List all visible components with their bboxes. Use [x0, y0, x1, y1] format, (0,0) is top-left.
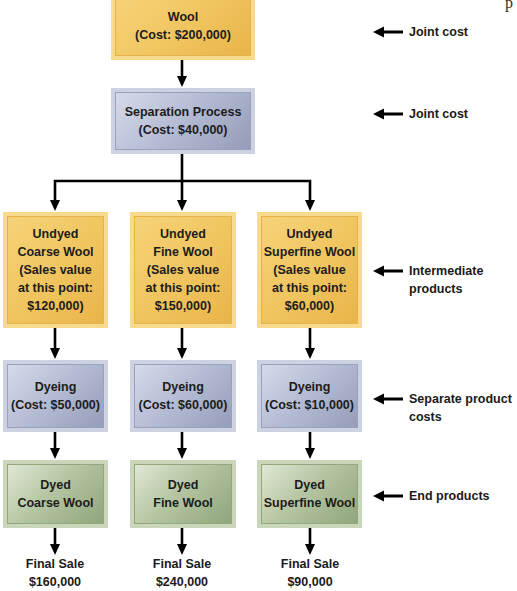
- process-cost: (Cost: $60,000): [139, 396, 228, 414]
- annotation-label: Joint cost: [409, 23, 468, 41]
- annotation-separate-product-costs: Separate product costs: [373, 390, 512, 426]
- process-title: Dyeing: [289, 378, 331, 396]
- end-product-label: Dyed: [294, 476, 325, 494]
- sales-value-label: (Sales value: [19, 261, 91, 279]
- dyed-coarse-wool-box: Dyed Coarse Wool: [3, 460, 108, 528]
- annotation-label: costs: [409, 408, 512, 426]
- sales-value: $150,000): [155, 297, 211, 315]
- intermediate-coarse-wool-box: Undyed Coarse Wool (Sales value at this …: [3, 212, 108, 328]
- process-cost: (Cost: $10,000): [265, 396, 354, 414]
- annotation-joint-cost-2: Joint cost: [373, 105, 468, 123]
- left-arrow-icon: [373, 490, 403, 502]
- final-sale-coarse: Final Sale $160,000: [5, 555, 105, 591]
- sales-value-label: at this point:: [272, 279, 347, 297]
- left-arrow-icon: [373, 26, 403, 38]
- process-cost: (Cost: $50,000): [11, 396, 100, 414]
- intermediate-label: Undyed: [160, 225, 206, 243]
- dyed-fine-wool-box: Dyed Fine Wool: [130, 460, 236, 528]
- final-sale-superfine: Final Sale $90,000: [260, 555, 360, 591]
- final-sale-label: Final Sale: [132, 555, 232, 573]
- intermediate-product-name: Fine Wool: [153, 243, 213, 261]
- end-product-name: Coarse Wool: [17, 494, 93, 512]
- intermediate-fine-wool-box: Undyed Fine Wool (Sales value at this po…: [130, 212, 236, 328]
- dyed-superfine-wool-box: Dyed Superfine Wool: [257, 460, 362, 528]
- end-product-label: Dyed: [168, 476, 199, 494]
- sales-value-label: at this point:: [146, 279, 221, 297]
- intermediate-label: Undyed: [287, 225, 333, 243]
- intermediate-label: Undyed: [33, 225, 79, 243]
- separation-cost: (Cost: $40,000): [139, 121, 228, 139]
- dyeing-coarse-box: Dyeing (Cost: $50,000): [3, 360, 108, 432]
- wool-cost: (Cost: $200,000): [135, 26, 231, 44]
- annotation-end-products: End products: [373, 487, 490, 505]
- dyeing-superfine-box: Dyeing (Cost: $10,000): [257, 360, 362, 432]
- final-sale-label: Final Sale: [260, 555, 360, 573]
- sales-value-label: (Sales value: [147, 261, 219, 279]
- left-arrow-icon: [373, 393, 403, 405]
- annotation-label: End products: [409, 487, 490, 505]
- end-product-label: Dyed: [40, 476, 71, 494]
- sales-value-label: at this point:: [18, 279, 93, 297]
- separation-title: Separation Process: [125, 103, 242, 121]
- end-product-name: Superfine Wool: [264, 494, 355, 512]
- intermediate-product-name: Superfine Wool: [264, 243, 355, 261]
- sales-value-label: (Sales value: [273, 261, 345, 279]
- process-title: Dyeing: [162, 378, 204, 396]
- left-arrow-icon: [373, 265, 403, 277]
- final-sale-value: $90,000: [260, 573, 360, 591]
- intermediate-superfine-wool-box: Undyed Superfine Wool (Sales value at th…: [257, 212, 362, 328]
- final-sale-value: $160,000: [5, 573, 105, 591]
- wool-title: Wool: [168, 8, 198, 26]
- separation-process-box: Separation Process (Cost: $40,000): [111, 88, 255, 154]
- sales-value: $60,000): [285, 297, 334, 315]
- final-sale-label: Final Sale: [5, 555, 105, 573]
- wool-box: Wool (Cost: $200,000): [111, 0, 255, 60]
- annotation-intermediate-products: Intermediate products: [373, 262, 483, 298]
- annotation-label: Intermediate: [409, 262, 483, 280]
- dyeing-fine-box: Dyeing (Cost: $60,000): [130, 360, 236, 432]
- annotation-joint-cost-1: Joint cost: [373, 23, 468, 41]
- process-title: Dyeing: [35, 378, 77, 396]
- annotation-label: products: [409, 280, 483, 298]
- final-sale-value: $240,000: [132, 573, 232, 591]
- annotation-label: Separate product: [409, 390, 512, 408]
- final-sale-fine: Final Sale $240,000: [132, 555, 232, 591]
- sales-value: $120,000): [27, 297, 83, 315]
- left-arrow-icon: [373, 108, 403, 120]
- intermediate-product-name: Coarse Wool: [17, 243, 93, 261]
- end-product-name: Fine Wool: [153, 494, 213, 512]
- annotation-label: Joint cost: [409, 105, 468, 123]
